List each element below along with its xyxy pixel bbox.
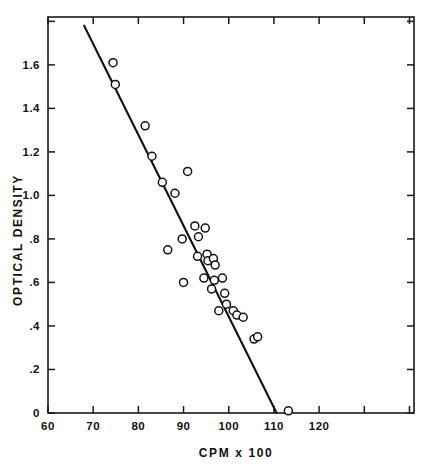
x-axis-title: CPM x 100 [199, 446, 273, 460]
data-point [171, 189, 179, 197]
y-tick-label: 1.2 [23, 146, 41, 158]
data-point [194, 233, 202, 241]
x-tick-label: 80 [131, 420, 145, 432]
x-tick-label: 90 [177, 420, 191, 432]
y-axis-tick-marks [48, 21, 414, 413]
data-point [184, 167, 192, 175]
data-point [194, 252, 202, 260]
y-tick-label: 1.6 [23, 59, 41, 71]
x-tick-label: 60 [41, 420, 55, 432]
data-point [200, 274, 208, 282]
data-point [111, 80, 119, 88]
plot-canvas: 60708090100110120 1.61.41.21.0.8.6.4.20 … [0, 0, 428, 464]
y-tick-label: .8 [29, 233, 40, 245]
data-point-markers [109, 59, 292, 415]
data-point [254, 333, 262, 341]
x-tick-label: 70 [86, 420, 100, 432]
x-tick-label: 120 [309, 420, 330, 432]
data-point [178, 235, 186, 243]
y-tick-label: 0 [33, 407, 40, 419]
data-point [211, 261, 219, 269]
scatter-plot-figure: 60708090100110120 1.61.41.21.0.8.6.4.20 … [0, 0, 428, 464]
y-tick-label: .6 [29, 276, 40, 288]
data-point [239, 313, 247, 321]
y-tick-label: 1.4 [23, 102, 41, 114]
data-point [180, 278, 188, 286]
data-point [141, 122, 149, 130]
x-tick-label: 100 [218, 420, 239, 432]
data-point [215, 307, 223, 315]
data-point [109, 59, 117, 67]
data-point [201, 224, 209, 232]
axes-frame-box [48, 17, 414, 413]
y-tick-label: 1.0 [23, 189, 41, 201]
data-point [191, 222, 199, 230]
data-point [164, 246, 172, 254]
data-point [221, 289, 229, 297]
data-point [208, 285, 216, 293]
data-point [222, 300, 230, 308]
x-tick-label: 110 [264, 420, 284, 432]
axes-frame [48, 17, 414, 413]
y-tick-label: .2 [29, 363, 40, 375]
y-axis-tick-labels: 1.61.41.21.0.8.6.4.20 [23, 59, 41, 419]
data-point [284, 407, 292, 415]
x-axis-tick-marks [48, 17, 409, 413]
data-point [218, 274, 226, 282]
y-axis-title: OPTICAL DENSITY [11, 174, 25, 306]
data-point [148, 152, 156, 160]
y-tick-label: .4 [29, 320, 40, 332]
data-point [158, 178, 166, 186]
x-axis-tick-labels: 60708090100110120 [41, 420, 329, 432]
data-point [210, 276, 218, 284]
